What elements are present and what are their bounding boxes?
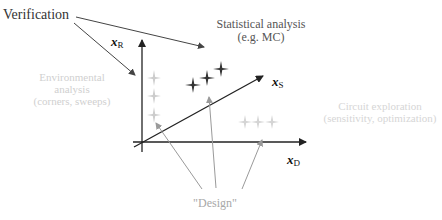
axis-x-s-sub: S xyxy=(279,80,284,90)
exploration-markers xyxy=(238,115,279,129)
design-label: "Design" xyxy=(175,197,255,209)
design-text: "Design" xyxy=(175,197,255,209)
verification-text: Verification xyxy=(3,9,69,21)
environmental-analysis-label: Environmental analysis (corners, sweeps) xyxy=(22,71,122,107)
axis-label-x-d: xD xyxy=(287,152,300,168)
design-arrow-environmental xyxy=(156,123,202,189)
statistical-markers xyxy=(185,61,229,93)
axis-label-x-s: xS xyxy=(272,74,284,90)
design-arrow-exploration xyxy=(242,140,262,189)
exploration-line-1: Circuit exploration xyxy=(318,100,442,112)
verification-arrow-environmental xyxy=(74,23,135,75)
exploration-line-2: (sensitivity, optimization) xyxy=(318,112,442,124)
verification-arrow-statistical xyxy=(76,17,204,47)
environmental-markers xyxy=(147,70,161,123)
statistical-line-2: (e.g. MC) xyxy=(206,31,316,44)
axis-label-x-r: xR xyxy=(111,34,124,50)
axis-x-r-sub: R xyxy=(118,40,124,50)
axis-x-d-sub: D xyxy=(294,158,301,168)
environmental-line-3: (corners, sweeps) xyxy=(22,95,122,107)
environmental-line-1: Environmental xyxy=(22,71,122,83)
environmental-line-2: analysis xyxy=(22,83,122,95)
circuit-exploration-label: Circuit exploration (sensitivity, optimi… xyxy=(318,100,442,124)
verification-label: Verification xyxy=(3,9,69,21)
design-space-diagram: Verification Statistical analysis (e.g. … xyxy=(0,0,442,220)
statistical-analysis-label: Statistical analysis (e.g. MC) xyxy=(206,18,316,44)
